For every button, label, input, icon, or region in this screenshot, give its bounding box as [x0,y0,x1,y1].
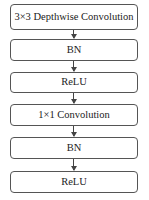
arrow-down-icon [73,126,74,136]
node-label: 3×3 Depthwise Convolution [14,12,133,23]
node-label: BN [67,45,82,56]
depthwise-conv-node: 3×3 Depthwise Convolution [10,4,138,30]
node-label: ReLU [61,177,87,188]
pointwise-conv-node: 1×1 Convolution [10,104,138,126]
relu-node-1: ReLU [10,72,138,93]
arrow-down-icon [73,93,74,103]
arrow-down-icon [73,61,74,71]
node-label: 1×1 Convolution [38,110,110,121]
bn-node-1: BN [10,39,138,61]
node-label: BN [67,143,82,154]
bn-node-2: BN [10,137,138,159]
relu-node-2: ReLU [10,171,138,193]
arrow-down-icon [73,159,74,170]
node-label: ReLU [61,77,87,88]
arrow-down-icon [73,30,74,38]
